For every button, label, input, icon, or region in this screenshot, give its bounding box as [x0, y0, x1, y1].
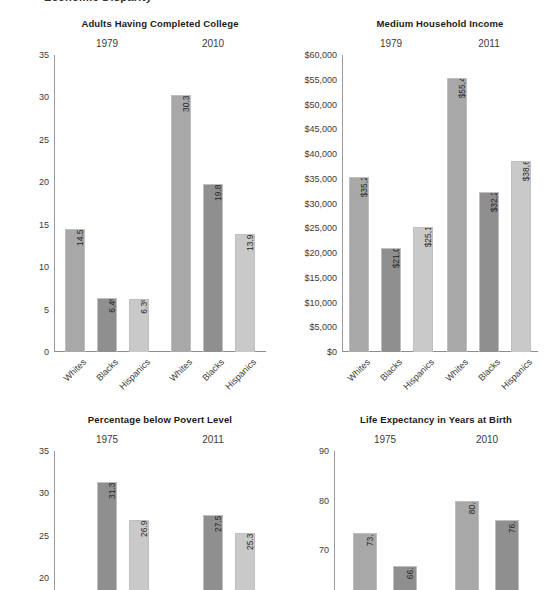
y-axis-tick-label: 70: [297, 545, 329, 555]
y-axis-tick-label: $55,000: [281, 75, 337, 85]
bar-value-label: 14.5%: [75, 229, 85, 246]
bar-value-label: 31.3%: [107, 482, 117, 499]
y-axis-line: [54, 55, 55, 352]
bar[interactable]: 31.3%: [97, 482, 117, 590]
y-axis-tick-label: 0: [9, 347, 49, 357]
bar-value-label: 19.8%: [213, 184, 223, 201]
group-year-label: 2011: [478, 38, 500, 49]
bar-value-label: $25,159: [423, 227, 433, 247]
y-axis-tick-label: $50,000: [281, 100, 337, 110]
y-axis-tick-label: 30: [9, 488, 49, 498]
y-axis-line: [54, 451, 55, 590]
y-axis-tick-label: $60,000: [281, 50, 337, 60]
bar[interactable]: 19.8%: [203, 184, 223, 352]
group-year-label: 1979: [96, 38, 118, 49]
bar-value-label: 27.5%: [213, 515, 223, 532]
bar[interactable]: $38,624: [511, 161, 531, 352]
y-axis-tick-label: 5: [9, 305, 49, 315]
bar-value-label: 73.4: [365, 533, 375, 546]
group-year-label: 2011: [202, 434, 224, 445]
y-axis-line: [334, 451, 335, 590]
bar[interactable]: 26.9%: [129, 520, 149, 590]
y-axis-tick-label: 15: [9, 220, 49, 230]
y-axis-tick-label: $40,000: [281, 149, 337, 159]
y-axis-tick-label: $30,000: [281, 199, 337, 209]
group-year-label: 2010: [202, 38, 224, 49]
y-axis-tick-label: 80: [297, 496, 329, 506]
bar[interactable]: $25,159: [413, 227, 433, 352]
y-axis-tick-label: $35,000: [281, 174, 337, 184]
bar-value-label: 13.9%: [245, 234, 255, 251]
bar-value-label: $21,024: [391, 248, 401, 268]
bar-value-label: $32,229: [489, 192, 499, 212]
bar[interactable]: 80.0: [455, 501, 479, 590]
chart-title: Adults Having Completed College: [54, 18, 266, 29]
chart-title: Percentage below Povert Level: [54, 414, 266, 425]
cutoff-heading: Economic Disparity: [0, 0, 544, 3]
bar[interactable]: 14.5%: [65, 229, 85, 352]
y-axis-tick-label: 25: [9, 531, 49, 541]
bar-value-label: 25.3%: [245, 533, 255, 550]
bar-value-label: 76.1: [507, 520, 517, 533]
cutoff-heading-text: Economic Disparity: [0, 0, 544, 3]
y-axis-tick-label: $25,000: [281, 223, 337, 233]
chart-medium-household-income: Medium Household Income$0$5,000$10,000$1…: [280, 18, 544, 412]
x-axis-line: [342, 351, 538, 352]
y-axis-tick-label: 20: [9, 177, 49, 187]
chart-percentage-below-poverty-level: Percentage below Povert Level10152025303…: [8, 414, 280, 590]
plot-area: 05101520253035197914.5%Whites6.4%Blacks6…: [54, 55, 266, 352]
bar-value-label: 6.3%: [139, 299, 149, 314]
plot-area: 30405060708090197573.4Whites66.8Blacks20…: [334, 451, 538, 590]
y-axis-tick-label: 10: [9, 262, 49, 272]
y-axis-tick-label: $15,000: [281, 273, 337, 283]
bar-value-label: 30.3%: [181, 95, 191, 112]
plot-area: $0$5,000$10,000$15,000$20,000$25,000$30,…: [342, 55, 538, 352]
y-axis-tick-label: 25: [9, 135, 49, 145]
chart-adults-completed-college: Adults Having Completed College051015202…: [8, 18, 280, 412]
chart-life-expectancy-years-at-birth: Life Expectancy in Years at Birth3040506…: [280, 414, 544, 590]
group-year-label: 1975: [374, 434, 396, 445]
bar[interactable]: 27.5%: [203, 515, 223, 590]
group-year-label: 1979: [380, 38, 402, 49]
bar-value-label: $35,285: [359, 177, 369, 197]
y-axis-tick-label: 30: [9, 92, 49, 102]
y-axis-tick-label: $20,000: [281, 248, 337, 258]
y-axis-tick-label: 90: [297, 446, 329, 456]
bar[interactable]: $35,285: [349, 177, 369, 352]
y-axis-tick-label: 35: [9, 50, 49, 60]
y-axis-tick-label: $10,000: [281, 298, 337, 308]
bar-value-label: 6.4%: [107, 298, 117, 313]
group-year-label: 2010: [476, 434, 498, 445]
bar-value-label: $38,624: [521, 161, 531, 181]
bar-value-label: 26.9%: [139, 520, 149, 537]
plot-area: 1015202530351975Whites31.3%Blacks26.9%Hi…: [54, 451, 266, 590]
chart-title: Medium Household Income: [342, 18, 538, 29]
bar[interactable]: $55,412: [447, 78, 467, 352]
bar[interactable]: $21,024: [381, 248, 401, 352]
bar-value-label: 66.8: [405, 566, 415, 579]
y-axis-tick-label: 20: [9, 573, 49, 583]
bar-value-label: $55,412: [457, 78, 467, 98]
y-axis-tick-label: $5,000: [281, 322, 337, 332]
bar[interactable]: 66.8: [393, 566, 417, 590]
chart-title: Life Expectancy in Years at Birth: [334, 414, 538, 425]
group-year-label: 1975: [96, 434, 118, 445]
y-axis-tick-label: $45,000: [281, 124, 337, 134]
bar[interactable]: $32,229: [479, 192, 499, 352]
bar[interactable]: 13.9%: [235, 234, 255, 352]
bar[interactable]: 25.3%: [235, 533, 255, 590]
bar[interactable]: 73.4: [353, 533, 377, 590]
bar[interactable]: 6.3%: [129, 299, 149, 352]
y-axis-tick-label: $0: [281, 347, 337, 357]
bar[interactable]: 76.1: [495, 520, 519, 590]
bar[interactable]: 30.3%: [171, 95, 191, 352]
bar-value-label: 80.0: [467, 501, 477, 514]
bar[interactable]: 6.4%: [97, 298, 117, 352]
y-axis-line: [342, 55, 343, 352]
y-axis-tick-label: 35: [9, 446, 49, 456]
chart-sheet: Economic Disparity Adults Having Complet…: [0, 0, 544, 590]
